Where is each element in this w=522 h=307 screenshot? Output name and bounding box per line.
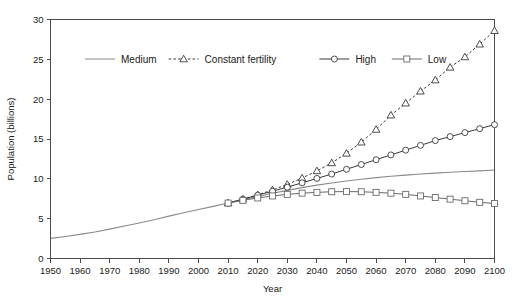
legend-label: Medium: [121, 54, 157, 65]
data-marker-circle: [462, 130, 468, 136]
y-tick-label: 0: [38, 253, 43, 264]
data-marker-square: [388, 190, 394, 196]
x-tick-label: 1990: [158, 265, 179, 276]
x-tick-label: 1980: [129, 265, 150, 276]
data-marker-square: [403, 191, 409, 197]
data-marker-circle: [344, 166, 350, 172]
x-tick-label: 2030: [277, 265, 298, 276]
x-tick-label: 2090: [454, 265, 475, 276]
data-marker-circle: [314, 175, 320, 181]
data-marker-square: [358, 189, 364, 195]
y-tick-label: 10: [33, 173, 44, 184]
x-tick-label: 2060: [366, 265, 387, 276]
data-marker-square: [225, 200, 231, 206]
x-tick-label: 2010: [218, 265, 239, 276]
x-tick-label: 1950: [40, 265, 61, 276]
data-marker-square: [255, 195, 261, 201]
data-marker-square: [432, 195, 438, 201]
y-tick-label: 5: [38, 213, 43, 224]
x-tick-label: 2080: [425, 265, 446, 276]
population-projection-chart: 051015202530 195019601970198019902000201…: [0, 0, 522, 307]
data-marker-circle: [447, 134, 453, 140]
data-marker-circle: [358, 161, 364, 167]
x-tick-label: 2050: [336, 265, 357, 276]
chart-background: [0, 0, 522, 307]
x-axis-title: Year: [263, 283, 282, 294]
data-marker-square: [462, 198, 468, 204]
legend-label: Constant fertility: [205, 54, 277, 65]
x-tick-label: 1970: [99, 265, 120, 276]
data-marker-square: [314, 189, 320, 195]
x-tick-label: 2040: [306, 265, 327, 276]
y-axis-title: Population (billions): [5, 98, 16, 181]
data-marker-circle: [373, 157, 379, 163]
y-tick-label: 20: [33, 94, 44, 105]
data-marker-circle: [492, 122, 498, 128]
y-tick-label: 30: [33, 14, 44, 25]
data-marker-square: [284, 191, 290, 197]
legend-label: Low: [428, 54, 447, 65]
y-tick-label: 25: [33, 54, 44, 65]
data-marker-square: [404, 56, 410, 62]
data-marker-circle: [299, 180, 305, 186]
data-marker-circle: [477, 126, 483, 132]
x-tick-label: 1960: [70, 265, 91, 276]
data-marker-square: [447, 196, 453, 202]
data-marker-circle: [403, 147, 409, 153]
data-marker-circle: [418, 142, 424, 148]
data-marker-square: [329, 189, 335, 195]
data-marker-square: [344, 189, 350, 195]
data-marker-circle: [432, 138, 438, 144]
data-marker-circle: [284, 184, 290, 190]
data-marker-square: [492, 201, 498, 207]
data-marker-circle: [331, 56, 337, 62]
data-marker-square: [418, 193, 424, 199]
data-marker-circle: [329, 171, 335, 177]
data-marker-square: [299, 190, 305, 196]
x-tick-label: 2000: [188, 265, 209, 276]
x-tick-label: 2070: [395, 265, 416, 276]
x-tick-label: 2020: [247, 265, 268, 276]
data-marker-circle: [388, 152, 394, 158]
chart-canvas: 051015202530 195019601970198019902000201…: [0, 0, 522, 307]
data-marker-square: [477, 199, 483, 205]
y-tick-label: 15: [33, 133, 44, 144]
data-marker-square: [373, 189, 379, 195]
data-marker-square: [240, 197, 246, 203]
data-marker-square: [270, 193, 276, 199]
legend-label: High: [355, 54, 376, 65]
x-tick-label: 2100: [484, 265, 505, 276]
